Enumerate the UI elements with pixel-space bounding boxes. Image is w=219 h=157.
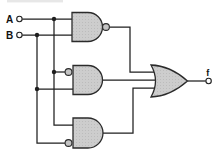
inverted-input-bubble-icon (65, 69, 72, 76)
nand-output-bubble-icon (103, 24, 110, 31)
output-f-terminal (206, 78, 211, 83)
and-gate-middle (65, 66, 102, 95)
logic-circuit-svg: A B f (0, 0, 219, 157)
nand-gate-body (72, 13, 103, 42)
input-a-label: A (6, 14, 13, 25)
or-gate (151, 65, 188, 97)
input-b-label: B (6, 30, 13, 41)
junctions (35, 17, 56, 91)
circuit-diagram: A B f (0, 0, 219, 157)
and-gate-bottom (65, 118, 103, 148)
or-gate-body (151, 65, 188, 97)
nand-gate-top (72, 13, 109, 42)
junction-dot (52, 17, 56, 21)
and-gate-body (73, 118, 103, 148)
inverted-input-bubble-icon (65, 140, 72, 147)
input-b-terminal (17, 32, 22, 37)
junction-dot (35, 33, 39, 37)
junction-dot (35, 87, 39, 91)
input-a-terminal (17, 16, 22, 21)
junction-dot (52, 70, 56, 74)
wire-bottom-and-to-or (103, 88, 159, 133)
output-f-label: f (206, 68, 210, 78)
scan-artifact (7, 0, 63, 2)
and-gate-body (73, 66, 103, 95)
